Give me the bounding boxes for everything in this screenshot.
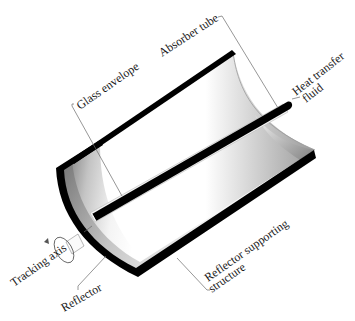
label-glass-envelope: Glass envelope xyxy=(74,59,142,112)
label-tracking-axis: Tracking axis xyxy=(8,240,70,289)
rotation-arrowhead-icon xyxy=(44,238,49,244)
label-absorber-tube: Absorber tube xyxy=(156,11,221,60)
tracking-axis-shaft xyxy=(66,234,84,254)
parabolic-trough-diagram: Absorber tube Glass envelope Heat transf… xyxy=(0,0,355,321)
label-reflector-supporting-line1: Reflector supporting xyxy=(202,216,291,284)
diagram-canvas: Absorber tube Glass envelope Heat transf… xyxy=(0,0,355,321)
label-reflector: Reflector xyxy=(59,280,105,314)
